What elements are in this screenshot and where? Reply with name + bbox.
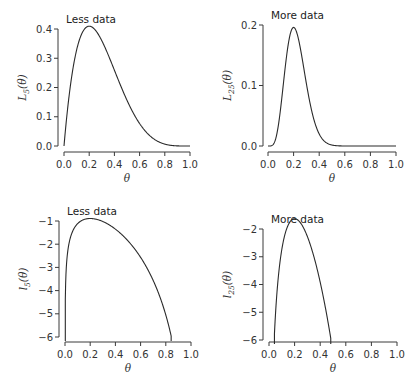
y-tick-label: −2 [242,224,257,235]
likelihood-curve [64,26,190,146]
likelihood-curve [274,219,330,344]
x-tick-label: 0.2 [287,349,303,360]
x-tick-label: 0.0 [260,159,276,170]
x-tick-label: 1.0 [389,349,405,360]
x-tick-label: 0.0 [261,349,277,360]
y-tick-label: 0.3 [36,53,52,64]
panel-title: Less data [66,13,116,25]
x-tick-label: 0.8 [362,159,378,170]
panel-title: More data [271,213,324,225]
y-axis-label: L5(θ) [16,74,31,101]
y-axis-label-arg: (θ) [17,268,29,283]
x-tick-label: 0.6 [338,349,354,360]
y-tick-label: 0.4 [36,24,52,35]
y-axis-label: L25(θ) [221,70,236,102]
y-tick-label: −4 [242,279,257,290]
x-tick-label: 0.2 [82,349,98,360]
x-axis-label: θ [124,172,131,184]
likelihood-curve [268,27,396,146]
y-tick-label: 0.1 [241,80,257,91]
panel-bottom-left-loglik-less-data: −1−2−3−4−5−60.00.20.40.60.81.0θl5(θ)Less… [17,205,199,374]
y-axis-label-arg: (θ) [221,70,233,85]
x-tick-label: 0.2 [286,159,302,170]
x-tick-label: 0.6 [337,159,353,170]
x-tick-label: 1.0 [388,159,404,170]
x-tick-label: 0.4 [312,349,328,360]
x-tick-label: 0.6 [133,349,149,360]
x-tick-label: 0.8 [363,349,379,360]
y-tick-label: −3 [38,262,53,273]
y-axis-label-main: L [16,94,28,102]
y-tick-label: −6 [38,332,53,343]
x-axis-label: θ [125,362,132,374]
y-tick-label: 0.0 [36,141,52,152]
y-tick-label: −3 [242,251,257,262]
x-tick-label: 0.2 [81,159,97,170]
y-axis-label-arg: (θ) [221,271,233,286]
y-axis-label: l25(θ) [221,271,236,298]
x-tick-label: 0.4 [107,349,123,360]
y-axis-label: l5(θ) [17,268,32,291]
x-axis-label: θ [330,362,337,374]
x-tick-label: 0.0 [57,349,73,360]
y-tick-label: −5 [38,308,53,319]
y-tick-label: 0.1 [36,111,52,122]
x-tick-label: 0.4 [106,159,122,170]
x-tick-label: 0.6 [132,159,148,170]
y-axis-label-subscript: 25 [227,285,236,296]
panel-title: Less data [67,205,117,217]
x-tick-label: 0.0 [56,159,72,170]
x-axis-label: θ [329,172,336,184]
panel-title: More data [271,9,324,21]
panel-top-right-likelihood-more-data: 0.00.10.20.00.20.40.60.81.0θL25(θ)More d… [221,9,404,184]
x-tick-label: 0.8 [158,349,174,360]
x-tick-label: 0.4 [311,159,327,170]
likelihood-figure: 0.00.10.20.30.40.00.20.40.60.81.0θL5(θ)L… [0,0,414,384]
y-tick-label: −2 [38,239,53,250]
x-tick-label: 1.0 [183,349,199,360]
panel-bottom-right-loglik-more-data: −2−3−4−5−60.00.20.40.60.81.0θl25(θ)More … [221,213,405,374]
x-tick-label: 1.0 [182,159,198,170]
y-axis-label-main: L [221,94,233,102]
y-tick-label: 0.0 [241,141,257,152]
y-axis-label-arg: (θ) [16,74,28,89]
y-tick-label: −5 [242,307,257,318]
y-axis-label-subscript: 25 [227,84,236,95]
y-tick-label: −1 [38,216,53,227]
panel-top-left-likelihood-less-data: 0.00.10.20.30.40.00.20.40.60.81.0θL5(θ)L… [16,13,198,184]
x-tick-label: 0.8 [157,159,173,170]
likelihood-curve [65,219,171,341]
y-tick-label: −4 [38,285,53,296]
y-tick-label: 0.2 [241,20,257,31]
y-tick-label: −6 [242,335,257,346]
y-tick-label: 0.2 [36,82,52,93]
